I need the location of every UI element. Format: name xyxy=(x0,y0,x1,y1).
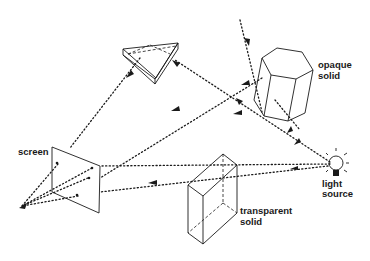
arrow-icon xyxy=(148,180,157,185)
eye-point-icon xyxy=(19,203,27,209)
label-opaque: opaque xyxy=(318,59,352,70)
labels: screen opaque solid transparent solid li… xyxy=(18,59,353,227)
ray-arrowheads xyxy=(19,38,301,209)
arrow-icon xyxy=(287,126,293,133)
light-diagram: screen opaque solid transparent solid li… xyxy=(0,0,370,261)
prism xyxy=(123,43,178,84)
screen xyxy=(52,147,100,213)
opaque-solid xyxy=(254,48,313,121)
transparent-solid xyxy=(188,154,237,244)
light-source xyxy=(326,148,349,176)
arrow-icon xyxy=(233,110,242,115)
light-rays xyxy=(22,20,330,206)
light-bulb-icon xyxy=(326,148,349,176)
label-opaque-solid: solid xyxy=(318,70,340,81)
label-transparent-solid: solid xyxy=(240,216,262,227)
label-screen: screen xyxy=(18,146,49,157)
arrow-icon xyxy=(294,138,301,145)
arrow-icon xyxy=(126,70,134,78)
label-transparent: transparent xyxy=(240,205,293,216)
label-light-source: source xyxy=(322,188,353,199)
arrow-icon xyxy=(171,106,180,111)
arrow-icon xyxy=(290,166,298,170)
arrow-icon xyxy=(241,80,250,85)
